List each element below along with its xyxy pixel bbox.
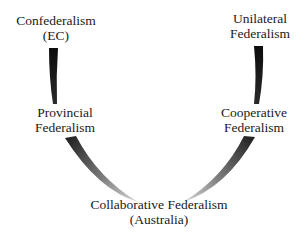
arc-segment-left-lower bbox=[65, 136, 138, 202]
federalism-diagram: Confederalism (EC) Unilateral Federalism… bbox=[0, 0, 306, 239]
node-provincial-line1: Provincial bbox=[35, 106, 95, 121]
node-unilateral-line1: Unilateral bbox=[230, 12, 290, 27]
node-unilateral-federalism: Unilateral Federalism bbox=[230, 12, 290, 41]
node-collaborative-line1: Collaborative Federalism bbox=[91, 198, 228, 213]
node-provincial-federalism: Provincial Federalism bbox=[35, 106, 95, 135]
node-cooperative-line2: Federalism bbox=[221, 121, 287, 136]
node-provincial-line2: Federalism bbox=[35, 121, 95, 136]
node-confederalism: Confederalism (EC) bbox=[16, 14, 95, 43]
arc-segment-right-lower bbox=[183, 136, 255, 202]
node-collaborative-federalism: Collaborative Federalism (Australia) bbox=[91, 198, 228, 227]
node-cooperative-line1: Cooperative bbox=[221, 106, 287, 121]
arc-segment-right-upper bbox=[254, 46, 263, 104]
node-confederalism-line1: Confederalism bbox=[16, 14, 95, 29]
node-unilateral-line2: Federalism bbox=[230, 27, 290, 42]
node-confederalism-line2: (EC) bbox=[16, 29, 95, 44]
arc-segment-left-upper bbox=[49, 48, 58, 104]
node-cooperative-federalism: Cooperative Federalism bbox=[221, 106, 287, 135]
node-collaborative-line2: (Australia) bbox=[91, 213, 228, 228]
